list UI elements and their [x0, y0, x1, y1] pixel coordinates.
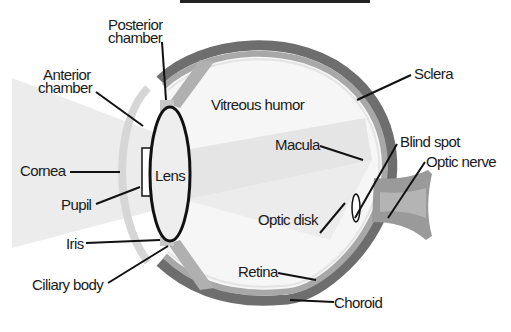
label-optic-nerve: Optic nerve — [426, 153, 496, 170]
label-pupil: Pupil — [61, 196, 92, 213]
label-sclera: Sclera — [414, 65, 454, 82]
label-vitreous-humor: Vitreous humor — [211, 96, 305, 113]
label-retina: Retina — [238, 263, 279, 280]
title-remnant — [180, 0, 370, 3]
label-lens: Lens — [155, 167, 185, 184]
eye-diagram: Posterior chamber Anterior chamber Corne… — [0, 0, 511, 332]
label-ciliary-body: Ciliary body — [32, 276, 104, 293]
label-posterior-chamber-2: chamber — [108, 29, 163, 46]
label-iris: Iris — [66, 235, 84, 252]
label-anterior-chamber-2: chamber — [38, 79, 93, 96]
label-macula: Macula — [275, 136, 321, 153]
label-choroid: Choroid — [334, 294, 383, 311]
label-blind-spot: Blind spot — [400, 133, 461, 150]
label-cornea: Cornea — [20, 162, 67, 179]
label-optic-disk: Optic disk — [258, 211, 319, 228]
